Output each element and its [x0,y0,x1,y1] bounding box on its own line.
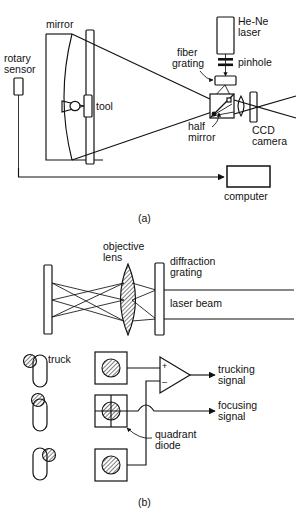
panel-a: rotary sensor mirror tool He-Ne laser pi… [4,15,296,224]
he-ne-laser-label-line2: laser [238,26,261,38]
technical-diagram: rotary sensor mirror tool He-Ne laser pi… [0,0,298,531]
figure-root: rotary sensor mirror tool He-Ne laser pi… [0,0,298,531]
truck-label: truck [48,353,72,365]
pinhole-label: pinhole [238,56,272,68]
trucking-signal-label-line2: signal [218,374,245,386]
tool-label: tool [96,100,113,112]
truck-bottom-spot [43,449,56,462]
ccd-sensor-plate [250,92,257,122]
computer-label: computer [224,190,268,202]
photodiode-bottom-spot [102,456,120,474]
rotary-sensor-body [14,78,23,95]
ray-b-9 [132,300,156,319]
truck-middle-spot [32,394,45,407]
fiber-grating-body [215,76,236,85]
diffraction-grating-label-line2: grating [170,266,202,278]
panel-b: objective lens diffraction grating laser… [24,240,295,508]
photodiode-top-spot [102,359,120,377]
tool-holder [84,95,92,117]
focusing-signal-wire [127,405,215,411]
quadrant-diode-label-line2: diode [155,439,181,451]
half-mirror-node-lower [212,112,217,117]
diffraction-grating-plate [155,263,164,335]
truck-top-spot [24,355,37,368]
half-mirror-node-upper [227,98,231,102]
reflector-plate [44,265,52,334]
ray-b-5 [52,283,124,317]
ccd-camera-label-line2: camera [252,135,287,147]
focusing-signal-label-line2: signal [218,410,245,422]
tool-nose-ellipse [70,101,80,110]
computer-box [227,166,270,187]
wire-bottom-diode-to-amp [127,381,160,465]
fiber-grating-label-line2: grating [172,57,204,69]
mirror-label: mirror [46,18,74,30]
he-ne-laser-body [217,17,234,54]
amplifier-plus-sign: + [162,361,167,371]
ray-b-4 [52,300,124,321]
ccd-ray-cross-b [234,96,296,114]
sensor-to-computer-bus [19,168,225,177]
panel-a-caption: (a) [138,212,151,224]
rotary-sensor-label-line2: sensor [4,63,36,75]
laser-beam-label: laser beam [170,297,222,309]
ray-b-1 [52,283,124,321]
concave-mirror-surface [64,34,72,160]
objective-lens-label-line2: lens [103,251,122,263]
quadrant-diode-leader [127,428,152,438]
quadrant-diode-spot [102,402,120,420]
amplifier-minus-sign: – [162,377,167,387]
panel-b-caption: (b) [138,496,151,508]
fiber-grating-leader [200,71,213,80]
ray-b-6 [52,300,124,317]
half-mirror-label-line2: mirror [188,131,216,143]
ray-b-10 [132,319,156,321]
ray-b-7 [132,283,156,290]
